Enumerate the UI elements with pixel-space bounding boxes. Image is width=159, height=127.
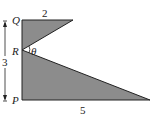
point-label-r: R bbox=[11, 45, 19, 57]
angle-arc bbox=[29, 46, 30, 53]
point-label-p: P bbox=[11, 94, 19, 106]
diagram: Q R P θ 2 3 5 bbox=[0, 0, 159, 127]
upper-triangle bbox=[22, 20, 73, 50]
dimension-label-height: 3 bbox=[2, 56, 8, 68]
lower-triangle bbox=[22, 50, 150, 100]
dimension-label-top: 2 bbox=[42, 7, 48, 19]
dimension-label-bottom: 5 bbox=[80, 104, 86, 116]
point-label-q: Q bbox=[12, 14, 20, 26]
angle-label-theta: θ bbox=[31, 45, 37, 57]
